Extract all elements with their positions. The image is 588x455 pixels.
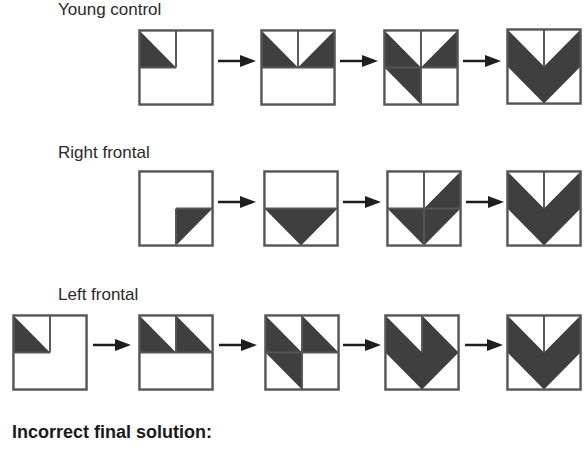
design-panel — [383, 29, 459, 106]
right-arrow-icon — [218, 54, 258, 68]
design-panel — [264, 314, 340, 391]
design-panel — [138, 29, 214, 106]
right-arrow-icon — [465, 338, 505, 352]
design-figure-icon — [386, 170, 462, 247]
right-arrow-icon — [466, 195, 506, 209]
design-panel — [506, 314, 582, 391]
right-arrow-icon — [343, 338, 383, 352]
row-label-young-control: Young control — [58, 0, 161, 20]
design-figure-icon — [263, 170, 339, 247]
right-arrow-icon — [343, 195, 383, 209]
design-figure-icon — [506, 28, 582, 105]
right-arrow-icon — [219, 338, 259, 352]
design-panel — [386, 170, 462, 247]
design-figure-icon — [264, 314, 340, 391]
design-panel — [506, 170, 582, 247]
design-figure-icon — [12, 314, 88, 391]
design-figure-icon — [260, 29, 336, 106]
design-figure-icon — [138, 170, 214, 247]
design-panel — [263, 170, 339, 247]
design-panel — [384, 314, 460, 391]
design-figure-icon — [138, 29, 214, 106]
design-panel — [138, 314, 214, 391]
design-figure-icon — [138, 314, 214, 391]
row-label-right-frontal: Right frontal — [58, 143, 150, 163]
design-panel — [138, 170, 214, 247]
incorrect-final-solution-label: Incorrect final solution: — [12, 422, 212, 443]
design-panel — [12, 314, 88, 391]
design-figure-icon — [384, 314, 460, 391]
design-figure-icon — [506, 314, 582, 391]
design-panel — [260, 29, 336, 106]
design-figure-icon — [506, 170, 582, 247]
right-arrow-icon — [340, 54, 380, 68]
design-panel — [506, 28, 582, 105]
right-arrow-icon — [93, 338, 133, 352]
row-label-left-frontal: Left frontal — [58, 285, 138, 305]
right-arrow-icon — [463, 54, 503, 68]
design-figure-icon — [383, 29, 459, 106]
right-arrow-icon — [218, 195, 258, 209]
